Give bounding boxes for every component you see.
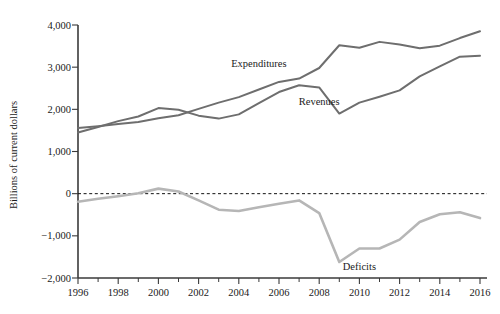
y-tick-label: −2,000 [41,273,71,284]
x-tick-label: 2012 [389,287,410,298]
series-annotations: ExpendituresRevenuesDeficits [231,58,376,271]
x-tick-label: 2006 [269,287,290,298]
series-label-deficits: Deficits [343,261,376,272]
y-tick-label: −1,000 [41,230,71,241]
series-label-expenditures: Expenditures [231,58,286,69]
series-label-revenues: Revenues [299,96,340,107]
x-tick-marks [78,278,480,284]
chart-figure: Billions of current dollars 4,0003,0002,… [0,0,500,314]
series-line-expenditures [78,31,480,128]
y-axis-title: Billions of current dollars [8,101,19,209]
y-tick-label: 1,000 [47,146,71,157]
x-tick-label: 2004 [228,287,250,298]
y-tick-labels: 4,0003,0002,0001,0000−1,000−2,000 [41,20,71,284]
x-tick-label: 2002 [188,287,209,298]
x-tick-label: 2010 [349,287,370,298]
y-tick-label: 0 [66,188,71,199]
x-tick-label: 2008 [309,287,330,298]
y-tick-marks [72,25,78,278]
y-tick-label: 2,000 [47,104,71,115]
x-tick-label: 2016 [470,287,491,298]
x-tick-label: 2014 [429,287,451,298]
x-tick-labels: 1996199820002002200420062008201020122014… [68,287,491,298]
series-line-deficits [78,189,480,262]
x-tick-label: 1998 [108,287,129,298]
y-tick-label: 3,000 [47,62,71,73]
x-tick-label: 1996 [68,287,89,298]
x-tick-label: 2000 [148,287,169,298]
y-tick-label: 4,000 [47,20,71,31]
line-chart: Billions of current dollars 4,0003,0002,… [0,0,500,314]
